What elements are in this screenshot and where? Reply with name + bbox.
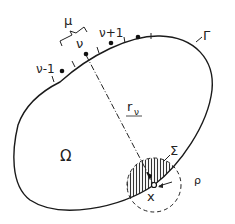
label-sigma: Σ [170, 143, 178, 158]
svg-text:ν: ν [134, 107, 139, 117]
node-extra [136, 35, 141, 40]
diagram-canvas: μ ν-1 ν ν+1 Γ Ω r ν Σ x ρ [0, 0, 235, 224]
label-node-curr: ν [76, 36, 83, 51]
label-omega: Ω [60, 147, 71, 165]
rho-arrow-icon [158, 183, 163, 188]
label-gamma: Γ [203, 28, 211, 43]
label-x: x [147, 189, 155, 204]
sigma-pointer [163, 155, 170, 162]
label-node-prev: ν-1 [36, 62, 55, 76]
label-r-nu: r ν [126, 99, 142, 117]
svg-text:r: r [127, 99, 133, 114]
distance-line-dashdot [86, 55, 154, 185]
gamma-pointer [196, 37, 202, 42]
point-x [152, 183, 157, 188]
label-mu: μ [64, 13, 72, 28]
label-rho: ρ [194, 174, 201, 187]
label-node-next: ν+1 [99, 26, 123, 40]
tick-marks [52, 33, 151, 82]
node-prev [60, 69, 65, 74]
node-next [109, 41, 114, 46]
node-curr [84, 52, 89, 57]
